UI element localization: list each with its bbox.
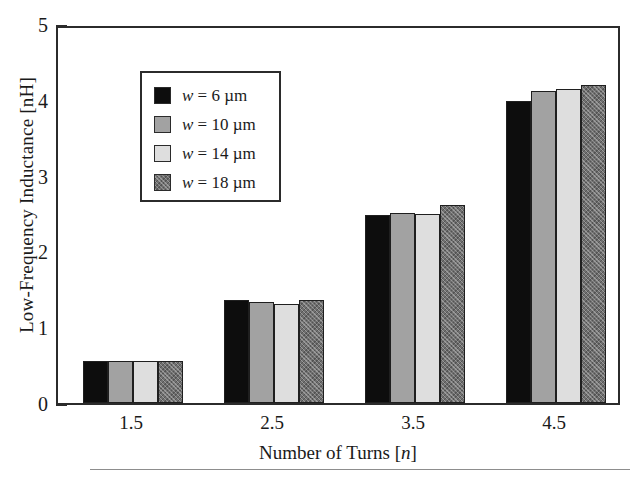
y-axis-title: Low-Frequency Inductance [nH] bbox=[16, 10, 38, 400]
page-divider-rule bbox=[90, 469, 630, 470]
bar bbox=[556, 89, 581, 403]
bar bbox=[274, 304, 299, 403]
legend-variable: w bbox=[182, 173, 193, 192]
x-axis-title-variable: n bbox=[401, 442, 411, 463]
legend-label: w = 14 µm bbox=[182, 144, 256, 164]
y-tick-label: 0 bbox=[6, 394, 48, 414]
bar bbox=[108, 361, 133, 403]
y-tick-label: 5 bbox=[6, 15, 48, 35]
legend-swatch bbox=[154, 116, 171, 133]
y-tick-label: 2 bbox=[6, 242, 48, 262]
bar bbox=[415, 214, 440, 403]
y-tick-label: 1 bbox=[6, 318, 48, 338]
bar bbox=[506, 101, 531, 403]
x-axis-title: Number of Turns [n] bbox=[56, 442, 620, 464]
bar-chart-figure: Low-Frequency Inductance [nH] 012345 w =… bbox=[0, 0, 630, 478]
x-axis-title-prefix: Number of Turns [ bbox=[259, 442, 401, 463]
legend-item: w = 18 µm bbox=[154, 168, 279, 197]
bar bbox=[365, 215, 390, 403]
y-tick-label: 3 bbox=[6, 167, 48, 187]
bar bbox=[440, 205, 465, 403]
legend-label: w = 18 µm bbox=[182, 173, 256, 193]
bar bbox=[531, 91, 556, 403]
legend-variable: w bbox=[182, 144, 193, 163]
legend-label: w = 6 µm bbox=[182, 86, 247, 106]
legend-variable: w bbox=[182, 115, 193, 134]
bar bbox=[581, 85, 606, 403]
y-tick-label: 4 bbox=[6, 91, 48, 111]
x-tick-label: 3.5 bbox=[363, 412, 463, 434]
legend-swatch bbox=[154, 174, 171, 191]
bar bbox=[299, 300, 324, 403]
legend-swatch bbox=[154, 87, 171, 104]
bar bbox=[133, 361, 158, 403]
legend-swatch bbox=[154, 145, 171, 162]
bar bbox=[83, 361, 108, 403]
chart-legend: w = 6 µmw = 10 µmw = 14 µmw = 18 µm bbox=[140, 71, 281, 202]
x-tick-label: 2.5 bbox=[222, 412, 322, 434]
legend-item: w = 14 µm bbox=[154, 139, 279, 168]
legend-label: w = 10 µm bbox=[182, 115, 256, 135]
x-axis-title-suffix: ] bbox=[411, 442, 417, 463]
legend-item: w = 10 µm bbox=[154, 110, 279, 139]
legend-variable: w bbox=[182, 86, 193, 105]
bar bbox=[390, 213, 415, 403]
x-tick-label: 1.5 bbox=[81, 412, 181, 434]
bar bbox=[158, 361, 183, 403]
bar bbox=[249, 302, 274, 403]
bar bbox=[224, 300, 249, 403]
x-tick-label: 4.5 bbox=[504, 412, 604, 434]
plot-area: w = 6 µmw = 10 µmw = 14 µmw = 18 µm bbox=[56, 26, 620, 405]
legend-item: w = 6 µm bbox=[154, 81, 279, 110]
